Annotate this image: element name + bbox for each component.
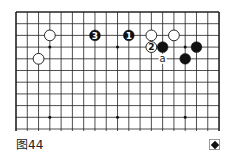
black-stone	[180, 53, 191, 64]
white-stone	[44, 30, 55, 41]
diamond-glyph	[210, 140, 218, 148]
star-point	[48, 46, 51, 49]
stone-move-number: 3	[92, 31, 98, 41]
stone-move-number: 2	[148, 42, 154, 52]
white-stone	[169, 30, 180, 41]
point-label-marker: a	[160, 53, 166, 64]
black-stone: 3	[90, 30, 101, 41]
white-stone: 2	[146, 42, 157, 53]
board-grid	[16, 12, 219, 131]
white-stone	[33, 53, 44, 64]
diamond-box-icon	[209, 139, 220, 150]
black-stone: 1	[123, 30, 134, 41]
star-point	[184, 46, 187, 49]
star-point	[48, 116, 51, 119]
star-point	[116, 46, 119, 49]
go-board-diagram: a 312	[0, 0, 232, 136]
board-markers: a	[159, 53, 167, 64]
star-point	[184, 116, 187, 119]
black-stone	[191, 42, 202, 53]
white-stone	[146, 30, 157, 41]
star-point	[116, 116, 119, 119]
stone-move-number: 1	[126, 31, 132, 41]
figure-caption: 图44	[16, 138, 43, 152]
black-stone	[157, 42, 168, 53]
